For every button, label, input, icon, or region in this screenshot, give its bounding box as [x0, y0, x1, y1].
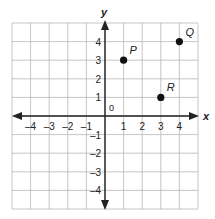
origin-label: 0 — [109, 103, 114, 113]
y-axis-label: y — [100, 6, 108, 18]
y-tick-label: –4 — [90, 185, 102, 196]
point-marker-icon — [157, 94, 164, 101]
y-axis-bottom-arrow-icon — [101, 200, 109, 210]
y-tick-label: –1 — [90, 130, 102, 141]
y-tick-label: 3 — [95, 55, 101, 66]
y-axis-top-arrow-icon — [101, 20, 109, 30]
y-tick-label: –2 — [90, 148, 102, 159]
x-tick-label: 4 — [177, 121, 183, 132]
point-marker-icon — [176, 38, 183, 45]
point-label: Q — [185, 26, 194, 38]
x-tick-label: –4 — [25, 121, 37, 132]
y-tick-label: –3 — [90, 167, 102, 178]
y-tick-label: 1 — [95, 92, 101, 103]
x-tick-label: 3 — [158, 121, 164, 132]
coordinate-plane: x y 0 –4–3–2–11234 4321–1–2–3–4 PQR — [0, 0, 215, 219]
x-tick-label: –2 — [62, 121, 74, 132]
point-label: P — [130, 44, 138, 56]
point-r: R — [157, 81, 175, 101]
x-tick-labels: –4–3–2–11234 — [25, 121, 183, 132]
x-tick-label: 1 — [121, 121, 127, 132]
x-axis-label: x — [202, 110, 210, 122]
point-p: P — [120, 44, 138, 64]
point-marker-icon — [120, 57, 127, 64]
point-q: Q — [176, 26, 195, 46]
x-axis-right-arrow-icon — [189, 112, 199, 120]
point-label: R — [167, 81, 175, 93]
x-tick-label: –3 — [44, 121, 56, 132]
y-tick-label: 2 — [95, 74, 101, 85]
y-tick-label: 4 — [95, 37, 101, 48]
data-points: PQR — [120, 26, 194, 101]
axes — [12, 20, 199, 210]
x-axis-left-arrow-icon — [12, 112, 22, 120]
x-tick-label: 2 — [139, 121, 145, 132]
